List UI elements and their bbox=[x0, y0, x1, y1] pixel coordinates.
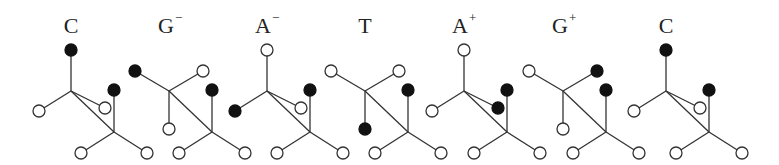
lower-right-node-open-circle-icon bbox=[435, 147, 447, 159]
top-node-open-circle-icon bbox=[261, 44, 273, 56]
unit-label-superscript: + bbox=[469, 10, 476, 25]
unit-label-superscript: − bbox=[272, 10, 279, 25]
lower-right-node-open-circle-icon bbox=[633, 147, 645, 159]
right-node-filled-circle-icon bbox=[591, 65, 603, 77]
lower-top-node-filled-circle-icon bbox=[402, 84, 414, 96]
inner-node-open-circle-icon bbox=[99, 102, 111, 114]
lower-right-node-open-circle-icon bbox=[239, 147, 251, 159]
unit-label: C bbox=[64, 13, 79, 38]
top-node-open-circle-icon bbox=[458, 44, 470, 56]
left-node-filled-circle-icon bbox=[229, 105, 241, 117]
inner-node-filled-circle-icon bbox=[492, 102, 504, 114]
unit-label-superscript: − bbox=[175, 10, 182, 25]
diagram-canvas: CG−A−TA+G+C bbox=[0, 0, 779, 165]
lower-left-node-open-circle-icon bbox=[271, 147, 283, 159]
lower-left-node-open-circle-icon bbox=[468, 147, 480, 159]
left-node-filled-circle-icon bbox=[129, 65, 141, 77]
inner-node-open-circle-icon bbox=[295, 102, 307, 114]
unit-7-c: C bbox=[628, 13, 748, 159]
top-node-filled-circle-icon bbox=[65, 44, 77, 56]
lower-top-node-filled-circle-icon bbox=[206, 84, 218, 96]
lower-right-node-open-circle-icon bbox=[141, 147, 153, 159]
lower-right-node-open-circle-icon bbox=[337, 147, 349, 159]
unit-label: C bbox=[659, 13, 674, 38]
lower-right-node-open-circle-icon bbox=[534, 147, 546, 159]
unit-4-t: T bbox=[325, 13, 447, 159]
lower-top-node-filled-circle-icon bbox=[703, 84, 715, 96]
unit-label: T bbox=[358, 13, 372, 38]
unit-5-a-plus: A+ bbox=[426, 10, 546, 159]
unit-label: A bbox=[255, 13, 271, 38]
left-node-open-circle-icon bbox=[325, 65, 337, 77]
unit-2-g-minus: G− bbox=[129, 10, 251, 159]
below-node-open-circle-icon bbox=[557, 123, 569, 135]
top-node-filled-circle-icon bbox=[660, 44, 672, 56]
unit-label-superscript: + bbox=[569, 10, 576, 25]
lower-left-node-open-circle-icon bbox=[670, 147, 682, 159]
bond-line bbox=[169, 91, 212, 132]
left-node-open-circle-icon bbox=[33, 105, 45, 117]
left-node-open-circle-icon bbox=[628, 105, 640, 117]
lower-top-node-filled-circle-icon bbox=[108, 84, 120, 96]
lower-top-node-filled-circle-icon bbox=[304, 84, 316, 96]
below-node-open-circle-icon bbox=[163, 123, 175, 135]
lower-left-node-open-circle-icon bbox=[173, 147, 185, 159]
lower-top-node-filled-circle-icon bbox=[600, 84, 612, 96]
inner-node-open-circle-icon bbox=[694, 102, 706, 114]
unit-6-g-plus: G+ bbox=[523, 10, 645, 159]
lower-left-node-open-circle-icon bbox=[567, 147, 579, 159]
left-node-open-circle-icon bbox=[523, 65, 535, 77]
left-node-open-circle-icon bbox=[426, 105, 438, 117]
lower-left-node-open-circle-icon bbox=[75, 147, 87, 159]
lower-left-node-open-circle-icon bbox=[369, 147, 381, 159]
lower-right-node-open-circle-icon bbox=[736, 147, 748, 159]
right-node-open-circle-icon bbox=[197, 65, 209, 77]
unit-3-a-minus: A− bbox=[229, 10, 349, 159]
bond-line bbox=[365, 91, 408, 132]
unit-label: G bbox=[158, 13, 174, 38]
unit-1-c: C bbox=[33, 13, 153, 159]
right-node-open-circle-icon bbox=[393, 65, 405, 77]
unit-label: A bbox=[452, 13, 468, 38]
base-pair-diagram: CG−A−TA+G+C bbox=[0, 0, 779, 165]
bond-line bbox=[563, 91, 606, 132]
below-node-filled-circle-icon bbox=[359, 123, 371, 135]
lower-top-node-filled-circle-icon bbox=[501, 84, 513, 96]
unit-label: G bbox=[552, 13, 568, 38]
